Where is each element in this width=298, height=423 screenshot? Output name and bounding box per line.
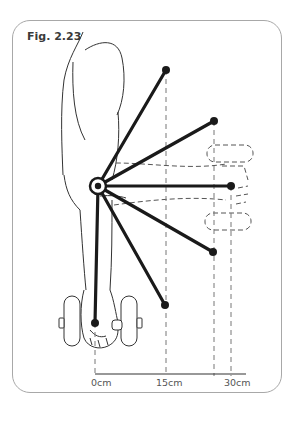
tick-label-15cm: 15cm: [156, 377, 183, 388]
tick-label-30cm: 30cm: [224, 377, 251, 388]
spoke-endpoints: [91, 66, 235, 327]
moment-arm-spokes: [95, 70, 231, 323]
dumbbell-outline: [59, 296, 142, 346]
tick-label-0cm: 0cm: [91, 377, 112, 388]
upper-arm-outline: [62, 32, 126, 290]
elbow-pivot-icon: [90, 178, 106, 194]
arm-moment-diagram: [0, 0, 298, 423]
fist-outline: [81, 290, 118, 348]
